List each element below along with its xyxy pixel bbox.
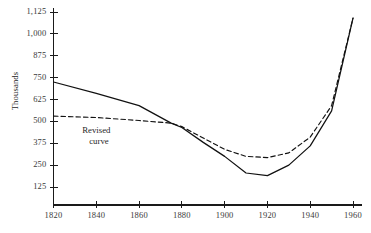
chart-container: Thousands 1252503755006257508751,0001,12… [0, 0, 371, 233]
axes [54, 8, 363, 205]
tick-marks [50, 12, 354, 208]
annotation-line-2: curve [82, 136, 110, 147]
x-tick-label: 1940 [290, 210, 330, 220]
x-tick-label: 1900 [205, 210, 245, 220]
line-chart-plot [0, 0, 371, 233]
y-tick-label: 750 [3, 72, 47, 82]
y-tick-label: 125 [3, 181, 47, 191]
x-tick-label: 1920 [247, 210, 287, 220]
annotation-line-1: Revised [82, 125, 110, 135]
x-tick-label: 1860 [119, 210, 159, 220]
series-line-1 [54, 18, 354, 176]
y-tick-label: 500 [3, 115, 47, 125]
revised-curve-annotation: Revised curve [82, 125, 110, 147]
data-series [54, 18, 354, 176]
y-tick-label: 625 [3, 94, 47, 104]
y-tick-label: 375 [3, 137, 47, 147]
y-tick-label: 875 [3, 50, 47, 60]
y-tick-label: 1,000 [3, 28, 47, 38]
y-tick-label: 250 [3, 159, 47, 169]
x-tick-label: 1840 [76, 210, 116, 220]
x-tick-label: 1960 [333, 210, 371, 220]
x-tick-label: 1820 [34, 210, 74, 220]
x-tick-label: 1880 [162, 210, 202, 220]
y-tick-label: 1,125 [3, 6, 47, 16]
